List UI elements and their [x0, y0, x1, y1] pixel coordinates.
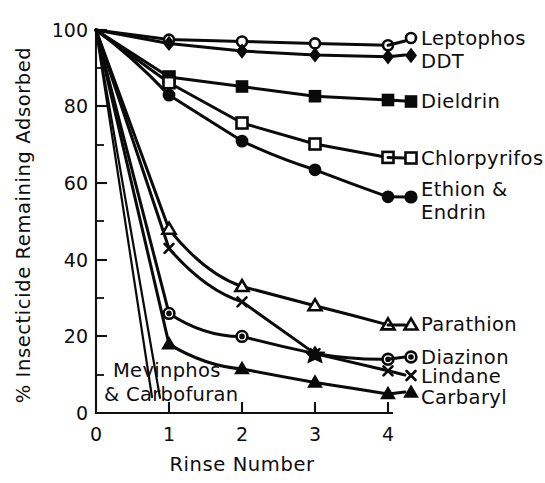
legend-marker-lindane-cross-x: [407, 371, 416, 380]
marker-open-triangle: [236, 280, 249, 291]
y-tick-label-40: 40: [64, 249, 88, 271]
series-line-mevinphos-carbofuran: [96, 30, 160, 398]
x-tick-label-2: 2: [236, 423, 248, 445]
legend-label-ethion-line2: Endrin: [421, 201, 486, 224]
insecticide-adsorption-chart: 100 80 60 40 20 0 0 1 2 3 4 Rinse Number…: [0, 0, 545, 483]
y-tick-label-0: 0: [76, 402, 88, 424]
leader-chlorpyrifos: [388, 157, 405, 158]
x-tick-label-4: 4: [382, 423, 394, 445]
legend-marker-ddt-filled-diamond: [406, 49, 416, 62]
marker-open-triangle: [309, 299, 322, 310]
markers-lindane: [165, 244, 393, 375]
leader-dieldrin: [388, 100, 405, 101]
legend-markers: [405, 33, 418, 397]
marker-open-circle: [310, 38, 320, 48]
marker-open-triangle: [163, 223, 176, 234]
leader-carbaryl: [388, 392, 405, 394]
legend-marker-carbaryl-filled-triangle: [405, 386, 418, 397]
x-tick-label-0: 0: [90, 423, 102, 445]
marker-filled-square: [237, 81, 248, 92]
legend-label-parathion: Parathion: [421, 313, 517, 336]
y-tick-label-80: 80: [64, 95, 88, 117]
y-tick-label-60: 60: [64, 172, 88, 194]
legend-marker-chlorpyrifos-open-square: [406, 153, 417, 164]
x-axis-title: Rinse Number: [169, 453, 315, 476]
y-tick-label-20: 20: [64, 325, 88, 347]
x-tick-label-3: 3: [309, 423, 321, 445]
marker-filled-triangle: [163, 338, 176, 349]
markers-dieldrin: [163, 71, 394, 106]
annotation-mevinphos-carbofuran: Mevinphos & Carbofuran: [104, 359, 238, 406]
marker-open-square: [310, 139, 321, 150]
marker-filled-diamond: [310, 49, 320, 62]
legend-label-leptophos: Leptophos: [421, 27, 526, 50]
legend-label-chlorpyrifos: Chlorpyrifos: [421, 147, 543, 170]
legend-label-carbaryl: Carbaryl: [421, 386, 507, 409]
legend-label-ethion-line1: Ethion &: [421, 178, 508, 201]
legend-label-lindane: Lindane: [421, 365, 501, 388]
legend-label-ddt: DDT: [421, 50, 464, 73]
marker-open-square: [237, 118, 248, 129]
legend-marker-dieldrin-filled-square: [406, 96, 417, 107]
marker-filled-square: [310, 91, 321, 102]
annotation-line2: & Carbofuran: [104, 383, 238, 406]
legend-marker-ethion-filled-circle: [405, 191, 417, 203]
legend-marker-diazinon-circle-dot: [406, 352, 417, 363]
marker-filled-circle: [309, 164, 320, 175]
x-tick-label-1: 1: [163, 423, 175, 445]
annotation-line1: Mevinphos: [113, 359, 221, 382]
legend-marker-leptophos-open-circle: [406, 33, 416, 43]
marker-filled-circle: [236, 136, 247, 147]
legend-label-dieldrin: Dieldrin: [421, 90, 500, 113]
leader-ddt: [388, 55, 405, 57]
marker-circle-dot: [164, 308, 175, 319]
legend-marker-parathion-open-triangle: [405, 319, 418, 330]
y-tick-label-100: 100: [52, 19, 88, 41]
legend-labels: Leptophos DDT Dieldrin Chlorpyrifos Ethi…: [421, 27, 543, 409]
marker-circle-dot: [237, 331, 248, 342]
y-axis-title: % Insecticide Remaining Adsorbed: [12, 47, 35, 404]
marker-open-square: [164, 77, 175, 88]
marker-filled-circle: [163, 90, 174, 101]
